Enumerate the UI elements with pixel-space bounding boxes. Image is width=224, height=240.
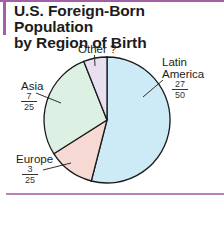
label-asia: Asia: [21, 80, 43, 92]
label-latin-america-line1: Latin: [162, 56, 187, 68]
fraction-numerator: 27: [172, 80, 188, 90]
label-europe: Europe: [16, 153, 53, 165]
fraction-denominator: 50: [172, 90, 188, 100]
fraction-latin-america: 27 50: [172, 80, 188, 100]
leader-line-other: [95, 55, 96, 66]
label-other: Other ?: [78, 43, 116, 55]
fraction-europe: 3 25: [22, 165, 38, 185]
fraction-denominator: 25: [22, 175, 38, 185]
fraction-numerator: 7: [21, 92, 37, 102]
fraction-denominator: 25: [21, 102, 37, 112]
fraction-asia: 7 25: [21, 92, 37, 112]
fraction-numerator: 3: [22, 165, 38, 175]
bottom-frame-rule: [6, 193, 224, 195]
